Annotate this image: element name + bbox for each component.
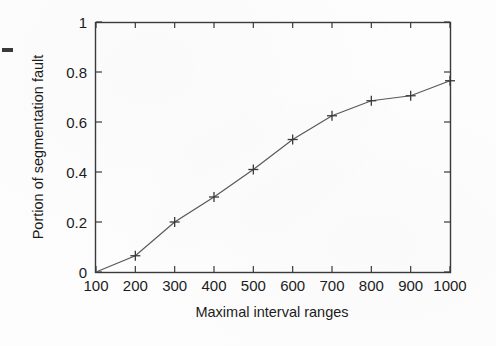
axis-ticks	[96, 22, 450, 272]
data-series-segmentation-fault	[96, 76, 455, 272]
x-tick-label: 500	[241, 277, 266, 294]
data-point-marker	[288, 135, 298, 145]
y-tick-labels: 00.20.40.60.81	[66, 14, 87, 281]
x-tick-label: 700	[319, 277, 344, 294]
y-tick-label: 1	[79, 14, 87, 31]
plot-frame	[96, 23, 451, 273]
x-tick-label: 100	[83, 277, 108, 294]
y-tick-label: 0	[79, 264, 87, 281]
x-tick-label: 600	[280, 277, 305, 294]
x-axis-title: Maximal interval ranges	[195, 304, 348, 320]
data-point-marker	[366, 96, 376, 106]
x-tick-labels: 1002003004005006007008009001000	[83, 277, 466, 294]
series-markers	[130, 76, 455, 261]
x-tick-label: 300	[162, 277, 187, 294]
y-tick-label: 0.6	[66, 114, 87, 131]
data-point-marker	[209, 192, 219, 202]
x-tick-label: 800	[359, 277, 384, 294]
data-point-marker	[406, 91, 416, 101]
y-tick-label: 0.4	[66, 164, 87, 181]
x-tick-label: 900	[398, 277, 423, 294]
y-axis-title: Portion of segmentation fault	[30, 55, 46, 240]
x-tick-label: 200	[123, 277, 148, 294]
series-line	[96, 81, 450, 272]
chart-figure: 1002003004005006007008009001000 00.20.40…	[0, 0, 496, 346]
x-tick-label: 400	[201, 277, 226, 294]
line-chart: 1002003004005006007008009001000 00.20.40…	[0, 0, 496, 346]
data-point-marker	[327, 111, 337, 121]
y-tick-label: 0.8	[66, 64, 87, 81]
x-tick-label: 1000	[433, 277, 466, 294]
data-point-marker	[248, 165, 258, 175]
data-point-marker	[445, 76, 455, 86]
y-tick-label: 0.2	[66, 214, 87, 231]
